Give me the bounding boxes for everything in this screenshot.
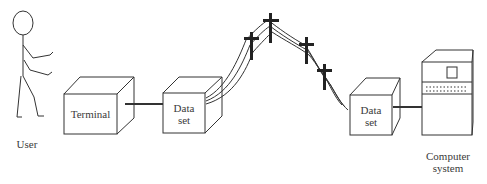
dataset-left-label-line1: Data [163,102,205,114]
telephone-pole-icon [299,37,314,64]
dataset-left-label: Data set [163,102,205,126]
computer-system-icon [422,50,473,135]
dataset-right-label-line2: set [350,116,392,128]
telephone-pole-icon [244,32,259,60]
computer-label-line1: Computer [420,150,476,162]
user-figure-icon [13,11,53,117]
terminal-box-icon [64,77,134,134]
computer-label-line2: system [420,162,476,174]
dataset-right-label-line1: Data [350,104,392,116]
dataset-left-label-line2: set [163,114,205,126]
computer-label: Computer system [420,150,476,174]
user-label: User [14,138,40,150]
phone-wires [206,20,348,110]
terminal-label: Terminal [64,108,117,120]
diagram-canvas [0,0,487,184]
telephone-poles [244,13,332,90]
dataset-right-label: Data set [350,104,392,128]
